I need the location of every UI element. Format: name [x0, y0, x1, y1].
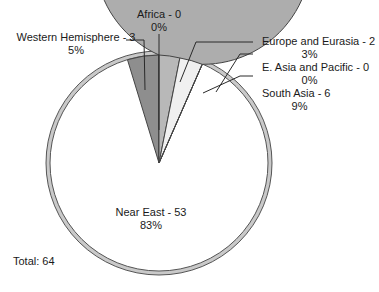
label-south-asia: South Asia - 6 9%: [262, 87, 379, 113]
label-near-east-name: Near East - 53: [103, 206, 199, 219]
label-east-asia-pacific: E. Asia and Pacific - 0 0%: [262, 61, 379, 87]
label-near-east-percent: 83%: [103, 219, 199, 232]
label-europe-eurasia: Europe and Eurasia - 2 3%: [262, 35, 379, 61]
label-south-asia-name: South Asia - 6: [262, 87, 379, 100]
label-east-asia-pacific-name: E. Asia and Pacific - 0: [262, 61, 379, 74]
label-western-hemisphere-percent: 5%: [4, 44, 148, 57]
label-total-text: Total: 64: [13, 255, 103, 268]
label-east-asia-pacific-percent: 0%: [262, 74, 379, 87]
label-africa-name: Africa - 0: [121, 8, 197, 21]
label-total: Total: 64: [13, 255, 103, 268]
label-south-asia-percent: 9%: [262, 100, 379, 113]
pie-chart-figure: Africa - 0 0% Western Hemisphere - 3 5% …: [0, 0, 379, 292]
label-europe-eurasia-name: Europe and Eurasia - 2: [262, 35, 379, 48]
label-near-east: Near East - 53 83%: [103, 206, 199, 232]
label-europe-eurasia-percent: 3%: [262, 48, 379, 61]
label-western-hemisphere: Western Hemisphere - 3 5%: [4, 31, 148, 57]
label-western-hemisphere-name: Western Hemisphere - 3: [4, 31, 148, 44]
